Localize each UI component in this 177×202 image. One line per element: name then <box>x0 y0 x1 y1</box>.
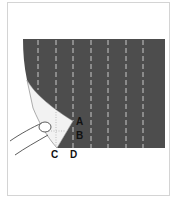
label-c: C <box>51 150 58 160</box>
label-b: B <box>76 131 83 141</box>
fabric-fold-illustration <box>0 0 177 202</box>
label-d: D <box>70 150 77 160</box>
label-a: A <box>76 117 83 127</box>
finger-icon <box>10 122 51 155</box>
